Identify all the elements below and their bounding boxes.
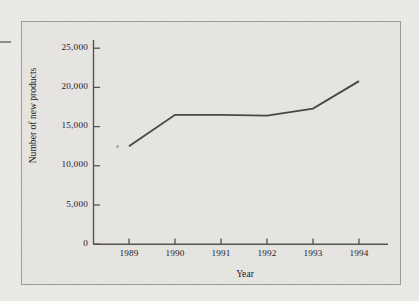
- y-tick-label-0: 0: [36, 238, 88, 248]
- y-tick-label-25000: 25,000: [36, 42, 88, 52]
- y-axis-ticks: [94, 48, 101, 244]
- x-tick-label-1991: 1991: [201, 248, 241, 258]
- x-tick-label-1993: 1993: [293, 248, 333, 258]
- x-tick-label-1990: 1990: [155, 248, 195, 258]
- y-axis-title: Number of new products: [27, 46, 38, 186]
- x-tick-label-1994: 1994: [339, 248, 379, 258]
- y-tick-label-15000: 15,000: [36, 120, 88, 130]
- y-tick-label-10000: 10,000: [36, 159, 88, 169]
- scan-speck: [116, 145, 119, 148]
- data-series-line: [129, 81, 359, 146]
- y-tick-label-20000: 20,000: [36, 81, 88, 91]
- x-tick-label-1992: 1992: [247, 248, 287, 258]
- figure-canvas: 25,000 20,000 15,000 10,000 5,000 0 1989…: [0, 0, 419, 301]
- x-axis-title: Year: [129, 268, 361, 279]
- x-tick-label-1989: 1989: [109, 248, 149, 258]
- y-tick-label-5000: 5,000: [36, 199, 88, 209]
- x-axis-ticks: [129, 239, 359, 245]
